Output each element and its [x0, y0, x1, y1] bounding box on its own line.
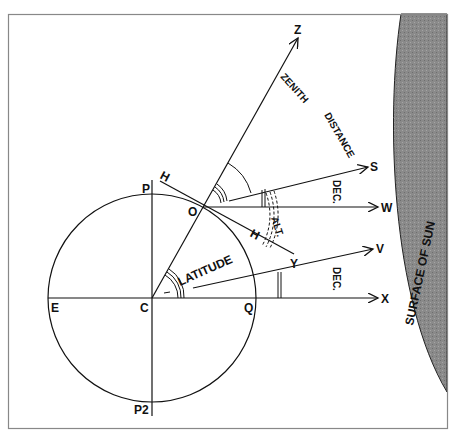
- sun-surface: [393, 14, 447, 392]
- label-s: S: [370, 160, 378, 174]
- label-x: X: [381, 292, 389, 306]
- label-p2: P2: [134, 403, 149, 417]
- label-distance: DISTANCE: [322, 111, 357, 160]
- label-latitude: LATITUDE: [176, 252, 235, 289]
- label-dec-lower: DEC.: [331, 267, 342, 291]
- label-h-upper: H: [158, 168, 172, 184]
- label-alt: ALT.: [269, 215, 286, 238]
- label-h-lower: H: [248, 226, 262, 242]
- zenith-distance-arc: [228, 163, 251, 193]
- label-z: Z: [294, 23, 301, 37]
- label-zenith: ZENITH: [279, 71, 311, 105]
- label-dec-upper: DEC.: [331, 180, 342, 204]
- label-o: O: [188, 205, 197, 219]
- label-e: E: [51, 301, 59, 315]
- label-c: C: [140, 301, 149, 315]
- label-q: Q: [244, 301, 253, 315]
- celestial-diagram: Z S W V X Y H H O P P2 E C Q ZENITH DIST…: [0, 0, 456, 436]
- sun-ray-line: [229, 167, 368, 201]
- label-p: P: [142, 182, 150, 196]
- label-y: Y: [290, 257, 298, 271]
- label-w: W: [381, 201, 393, 215]
- label-v: V: [376, 242, 384, 256]
- altitude-arc: [262, 193, 270, 246]
